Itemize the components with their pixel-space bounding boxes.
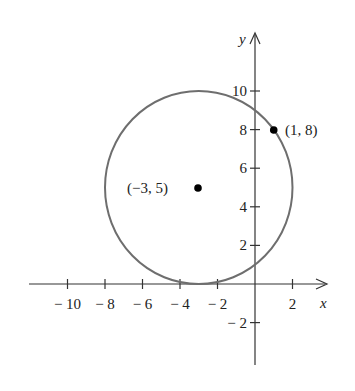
x-tick-label: − 10 xyxy=(54,296,81,312)
x-tick-label: − 8 xyxy=(95,296,115,312)
center-point-label: (−3, 5) xyxy=(127,180,168,197)
x-tick-label: − 6 xyxy=(133,296,153,312)
y-tick-label: 2 xyxy=(240,237,248,253)
circle-diagram: − 10− 8− 6− 4− 22 108642− 2 x y (−3, 5) … xyxy=(0,0,355,391)
y-tick-label: 6 xyxy=(240,160,248,176)
y-tick-label: 10 xyxy=(232,83,247,99)
center-point xyxy=(194,184,202,192)
x-tick-label: − 2 xyxy=(208,296,228,312)
point-on-circle-label: (1, 8) xyxy=(285,122,318,139)
x-axis-label: x xyxy=(319,295,327,311)
point-on-circle xyxy=(270,126,278,134)
y-tick-label: − 2 xyxy=(227,315,247,331)
x-tick-label: − 4 xyxy=(170,296,190,312)
y-axis-label: y xyxy=(237,31,246,47)
x-axis: − 10− 8− 6− 4− 22 xyxy=(29,279,327,312)
x-tick-label: 2 xyxy=(289,296,297,312)
y-tick-label: 4 xyxy=(240,199,248,215)
y-axis: 108642− 2 xyxy=(227,33,260,365)
y-tick-label: 8 xyxy=(240,122,248,138)
